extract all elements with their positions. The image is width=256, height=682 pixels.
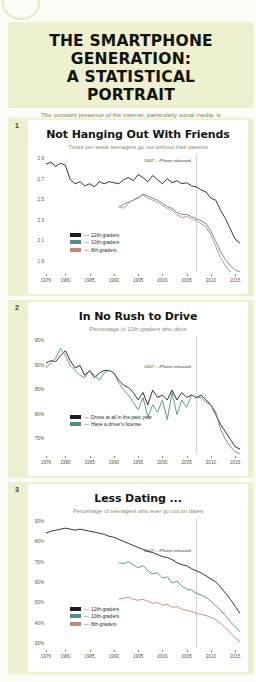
x-tick-mark xyxy=(138,456,139,458)
chart-title-2: In No Rush to Drive xyxy=(28,302,248,323)
x-tick-label: 2005 xyxy=(179,654,195,659)
x-tick-mark xyxy=(211,650,212,652)
y-tick-label: 2.1 xyxy=(28,238,44,243)
legend-dash: — xyxy=(84,613,89,619)
x-tick-label: 2015 xyxy=(227,654,243,659)
legend-dash: — xyxy=(84,621,89,627)
y-tick-label: 90% xyxy=(28,519,44,524)
x-tick-label: 1976 xyxy=(38,654,54,659)
x-tick-mark xyxy=(162,274,163,276)
legend-dash: — xyxy=(84,239,89,245)
legend-label: Drove at all in the past year xyxy=(91,414,152,420)
legend-label: 10th-graders xyxy=(91,613,119,619)
chart-panel-1: Not Hanging Out With Friends Times per w… xyxy=(28,120,248,294)
chart-number-2: 2 xyxy=(15,304,19,311)
legend-swatch xyxy=(70,248,81,252)
legend-item: —8th-graders xyxy=(70,247,119,252)
x-tick-label: 2010 xyxy=(203,278,219,283)
legend-item: —8th-graders xyxy=(70,621,119,626)
corner-arc-mark xyxy=(2,0,40,20)
legend-swatch xyxy=(70,233,81,237)
legend-item: —Drove at all in the past year xyxy=(70,414,152,419)
y-tick-label: 2.3 xyxy=(28,218,44,223)
x-tick-label: 2015 xyxy=(227,278,243,283)
x-tick-mark xyxy=(187,456,188,458)
x-tick-label: 1976 xyxy=(38,460,54,465)
legend-dash: — xyxy=(84,421,89,427)
chart-subtitle-1: Times per week teenagers go out without … xyxy=(28,144,248,150)
chart-title-1: Not Hanging Out With Friends xyxy=(28,120,248,141)
chart-legend-3: —12th-graders—10th-graders—8th-graders xyxy=(70,606,119,629)
x-tick-label: 2005 xyxy=(179,278,195,283)
y-tick-label: 95% xyxy=(28,338,44,343)
chart-annotation-1: 2007 – iPhone released xyxy=(144,158,190,163)
y-tick-label: 90% xyxy=(28,363,44,368)
legend-dash: — xyxy=(84,247,89,253)
legend-dash: — xyxy=(84,606,89,612)
legend-label: 8th-graders xyxy=(91,247,117,253)
x-tick-label: 1990 xyxy=(106,460,122,465)
x-tick-mark xyxy=(90,274,91,276)
x-tick-mark xyxy=(90,650,91,652)
x-tick-label: 2005 xyxy=(179,460,195,465)
chart-plot-3 xyxy=(46,518,240,648)
header-band: THE SMARTPHONE GENERATION: A STATISTICAL… xyxy=(8,22,254,108)
x-tick-label: 1980 xyxy=(57,278,73,283)
chart-plot-2 xyxy=(46,336,240,454)
page-title: THE SMARTPHONE GENERATION: A STATISTICAL… xyxy=(25,32,237,104)
chart-legend-2: —Drove at all in the past year—Have a dr… xyxy=(70,414,152,429)
x-tick-label: 2000 xyxy=(154,654,170,659)
legend-swatch xyxy=(70,240,81,244)
x-tick-mark xyxy=(65,650,66,652)
x-tick-mark xyxy=(46,650,47,652)
chart-panel-2: In No Rush to Drive Percentage of 12th-g… xyxy=(28,302,248,476)
x-tick-mark xyxy=(65,274,66,276)
x-tick-mark xyxy=(138,274,139,276)
x-tick-mark xyxy=(211,456,212,458)
y-tick-label: 80% xyxy=(28,539,44,544)
chart-block-2: 2 In No Rush to Drive Percentage of 12th… xyxy=(8,300,254,478)
y-tick-label: 60% xyxy=(28,580,44,585)
y-tick-label: 50% xyxy=(28,600,44,605)
x-tick-mark xyxy=(235,456,236,458)
legend-item: —10th-graders xyxy=(70,614,119,619)
legend-swatch xyxy=(70,622,81,626)
legend-item: —Have a driver's license xyxy=(70,422,152,427)
chart-panel-3: Less Dating ... Percentage of teenagers … xyxy=(28,484,248,672)
legend-dash: — xyxy=(84,414,89,420)
x-tick-label: 1985 xyxy=(82,278,98,283)
x-tick-mark xyxy=(114,650,115,652)
x-tick-mark xyxy=(187,274,188,276)
y-tick-label: 2.9 xyxy=(28,156,44,161)
y-tick-label: 80% xyxy=(28,412,44,417)
x-tick-mark xyxy=(162,456,163,458)
x-tick-mark xyxy=(138,650,139,652)
chart-legend-1: —12th-graders—10th-graders—8th-graders xyxy=(70,232,119,255)
chart-annotation-2: 2007 – iPhone released xyxy=(144,364,190,369)
chart-title-3: Less Dating ... xyxy=(28,484,248,505)
x-tick-label: 1995 xyxy=(130,278,146,283)
y-tick-label: 1.9 xyxy=(28,259,44,264)
title-line-2: A STATISTICAL PORTRAIT xyxy=(25,68,237,104)
x-tick-label: 1990 xyxy=(106,654,122,659)
x-tick-mark xyxy=(65,456,66,458)
legend-item: —10th-graders xyxy=(70,240,119,245)
x-tick-label: 2000 xyxy=(154,460,170,465)
x-tick-mark xyxy=(90,456,91,458)
x-tick-mark xyxy=(187,650,188,652)
x-tick-mark xyxy=(46,456,47,458)
x-tick-label: 1995 xyxy=(130,654,146,659)
x-tick-label: 1980 xyxy=(57,460,73,465)
x-tick-label: 1985 xyxy=(82,654,98,659)
legend-item: —12th-graders xyxy=(70,232,119,237)
legend-label: 12th-graders xyxy=(91,232,119,238)
title-line-1: THE SMARTPHONE GENERATION: xyxy=(49,31,213,68)
x-tick-mark xyxy=(211,274,212,276)
chart-annotation-3: 2007 – iPhone released xyxy=(144,548,190,553)
x-tick-label: 1995 xyxy=(130,460,146,465)
legend-swatch xyxy=(70,415,81,419)
chart-number-3: 3 xyxy=(15,486,19,493)
x-tick-mark xyxy=(114,274,115,276)
x-tick-mark xyxy=(46,274,47,276)
legend-label: 8th-graders xyxy=(91,621,117,627)
